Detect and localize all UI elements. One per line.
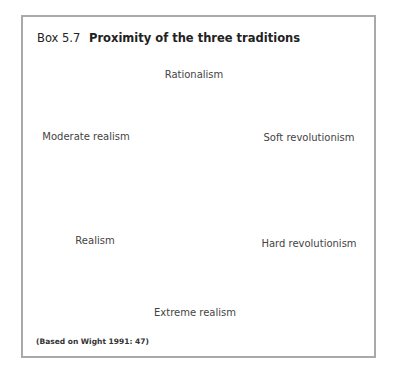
node-extreme-realism: Extreme realism — [154, 307, 236, 318]
box-title: Proximity of the three traditions — [89, 31, 300, 45]
source-caption: (Based on Wight 1991: 47) — [36, 337, 149, 346]
node-hard-revolutionism: Hard revolutionism — [261, 238, 356, 249]
box-heading: Box 5.7 Proximity of the three tradition… — [37, 31, 300, 45]
node-moderate-realism: Moderate realism — [42, 131, 129, 142]
box-number: Box 5.7 — [37, 31, 80, 45]
node-realism: Realism — [75, 235, 114, 246]
node-soft-revolutionism: Soft revolutionism — [264, 132, 355, 143]
node-rationalism: Rationalism — [165, 69, 224, 80]
